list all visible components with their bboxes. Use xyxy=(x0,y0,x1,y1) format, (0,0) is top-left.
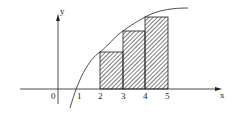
rectangles xyxy=(100,17,168,89)
x-tick-4: 4 xyxy=(143,91,148,101)
rectangle-3-4 xyxy=(123,31,145,89)
origin-label: 0 xyxy=(51,91,56,101)
x-tick-1: 1 xyxy=(77,91,82,101)
riemann-sum-diagram: y x 0 1 2 3 4 5 xyxy=(0,0,236,116)
y-axis-label: y xyxy=(60,6,65,16)
x-tick-3: 3 xyxy=(121,91,126,101)
rectangle-2-3 xyxy=(100,52,123,89)
rectangle-4-5 xyxy=(145,17,168,89)
x-tick-2: 2 xyxy=(98,91,103,101)
x-axis-label: x xyxy=(220,90,225,100)
x-tick-5: 5 xyxy=(165,91,170,101)
